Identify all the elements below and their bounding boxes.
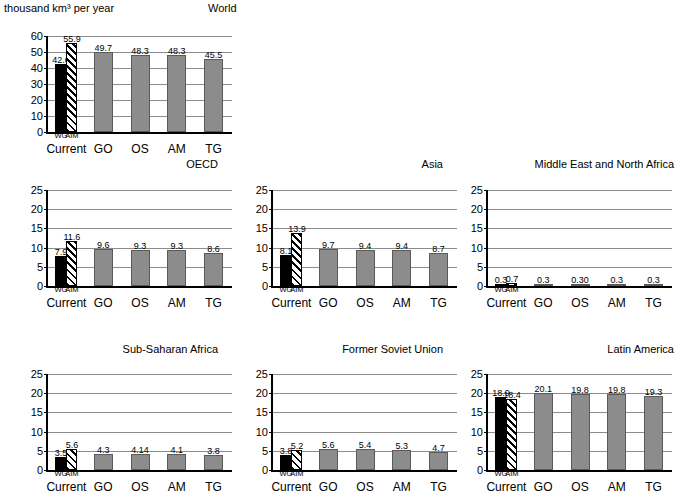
- y-tick-mark: [484, 190, 488, 191]
- bar-os: 48.3: [131, 55, 150, 132]
- y-tick-label: 40: [31, 62, 43, 74]
- gridline: [48, 432, 232, 433]
- bar-os: 0.30: [571, 284, 590, 286]
- bar-wg: 42.6WG: [55, 64, 66, 132]
- y-tick-mark: [484, 393, 488, 394]
- bar-aim: 5.6AIM: [66, 449, 77, 471]
- bar-wg: 8.1WG: [280, 255, 291, 286]
- y-tick-mark: [44, 209, 48, 210]
- category-label-os: OS: [356, 297, 373, 309]
- bar-sub-label-aim: AIM: [290, 470, 303, 478]
- bar-value-label: 19.8: [571, 386, 589, 395]
- category-label-go: GO: [534, 297, 553, 309]
- bar-value-label: 8.7: [432, 245, 445, 254]
- bar-tg: 45.5: [204, 59, 223, 132]
- y-tick-label: 20: [471, 387, 483, 399]
- gridline: [48, 190, 232, 191]
- category-label-os: OS: [571, 297, 588, 309]
- bar-go: 0.3: [534, 284, 553, 286]
- y-tick-label: 25: [471, 368, 483, 380]
- chart-title: Latin America: [452, 343, 674, 355]
- bar-value-label: 3.5: [55, 449, 68, 458]
- y-tick-mark: [44, 248, 48, 249]
- y-tick-label: 0: [37, 126, 43, 138]
- bar-value-label: 13.9: [288, 225, 306, 234]
- y-tick-label: 15: [256, 406, 268, 418]
- bar-am: 9.3: [167, 250, 186, 286]
- chart-panel: Sub-Saharan Africa05101520253.5WG5.6AIM4…: [12, 343, 250, 495]
- y-tick-label: 60: [31, 30, 43, 42]
- y-tick-label: 25: [256, 184, 268, 196]
- y-tick-label: 0: [37, 280, 43, 292]
- y-tick-mark: [44, 228, 48, 229]
- bar-os: 4.14: [131, 454, 150, 470]
- bar-value-label: 19.3: [645, 388, 663, 397]
- category-label-os: OS: [356, 481, 373, 493]
- plot-area: 05101520257.9WG11.6AIM9.69.39.38.6Curren…: [46, 190, 232, 288]
- y-tick-label: 0: [262, 464, 268, 476]
- gridline: [48, 228, 232, 229]
- bar-go: 4.3: [94, 454, 113, 471]
- bar-value-label: 5.3: [396, 442, 409, 451]
- bar-aim: 18.4AIM: [506, 399, 517, 470]
- bar-value-label: 18.4: [503, 391, 521, 400]
- y-tick-mark: [484, 451, 488, 452]
- y-tick-mark: [269, 470, 273, 471]
- y-tick-label: 10: [31, 242, 43, 254]
- y-tick-mark: [269, 228, 273, 229]
- plot-area: 05101520253.5WG5.6AIM4.34.144.13.8Curren…: [46, 374, 232, 472]
- category-label-tg: TG: [205, 143, 222, 155]
- bar-value-label: 19.8: [608, 386, 626, 395]
- y-tick-mark: [44, 374, 48, 375]
- bar-sub-label-aim: AIM: [65, 286, 78, 294]
- bar-tg: 0.3: [644, 284, 663, 286]
- category-label-current: Current: [46, 481, 86, 493]
- chart-title: Middle East and North Africa: [452, 158, 674, 170]
- gridline: [273, 209, 457, 210]
- y-tick-label: 25: [31, 184, 43, 196]
- y-tick-mark: [44, 116, 48, 117]
- y-tick-label: 15: [31, 222, 43, 234]
- y-tick-label: 15: [31, 406, 43, 418]
- bar-tg: 19.3: [644, 396, 663, 470]
- bar-aim: 5.2AIM: [291, 450, 302, 470]
- y-tick-label: 5: [477, 261, 483, 273]
- category-label-tg: TG: [430, 481, 447, 493]
- y-tick-label: 5: [37, 261, 43, 273]
- chart-panel: World010203040506042.6WG55.9AIM49.748.34…: [12, 2, 250, 168]
- category-label-tg: TG: [645, 481, 662, 493]
- y-tick-label: 10: [471, 242, 483, 254]
- bar-sub-label-aim: AIM: [65, 132, 78, 140]
- plot-area: 010203040506042.6WG55.9AIM49.748.348.345…: [46, 36, 232, 134]
- category-label-go: GO: [319, 297, 338, 309]
- y-tick-label: 25: [471, 184, 483, 196]
- y-tick-label: 10: [471, 426, 483, 438]
- y-tick-label: 20: [31, 387, 43, 399]
- y-tick-label: 50: [31, 46, 43, 58]
- bar-value-label: 48.3: [131, 47, 149, 56]
- bar-am: 5.3: [392, 450, 411, 470]
- bar-sub-label-aim: AIM: [65, 470, 78, 478]
- y-tick-label: 5: [477, 445, 483, 457]
- category-label-am: AM: [168, 481, 186, 493]
- gridline: [488, 374, 672, 375]
- y-tick-mark: [44, 267, 48, 268]
- y-tick-label: 10: [31, 426, 43, 438]
- gridline: [273, 190, 457, 191]
- y-tick-mark: [484, 209, 488, 210]
- bar-am: 4.1: [167, 454, 186, 470]
- bar-aim: 13.9AIM: [291, 233, 302, 286]
- chart-title: World: [208, 2, 237, 14]
- chart-panel: Middle East and North Africa05101520250.…: [452, 158, 679, 324]
- bar-os: 5.4: [356, 449, 375, 470]
- bar-value-label: 9.4: [359, 242, 372, 251]
- y-tick-mark: [484, 286, 488, 287]
- gridline: [488, 209, 672, 210]
- y-tick-mark: [269, 267, 273, 268]
- gridline: [488, 228, 672, 229]
- y-tick-mark: [484, 267, 488, 268]
- bar-value-label: 4.14: [131, 446, 149, 455]
- bar-wg: 3.8WG: [280, 455, 291, 470]
- gridline: [488, 267, 672, 268]
- gridline: [488, 190, 672, 191]
